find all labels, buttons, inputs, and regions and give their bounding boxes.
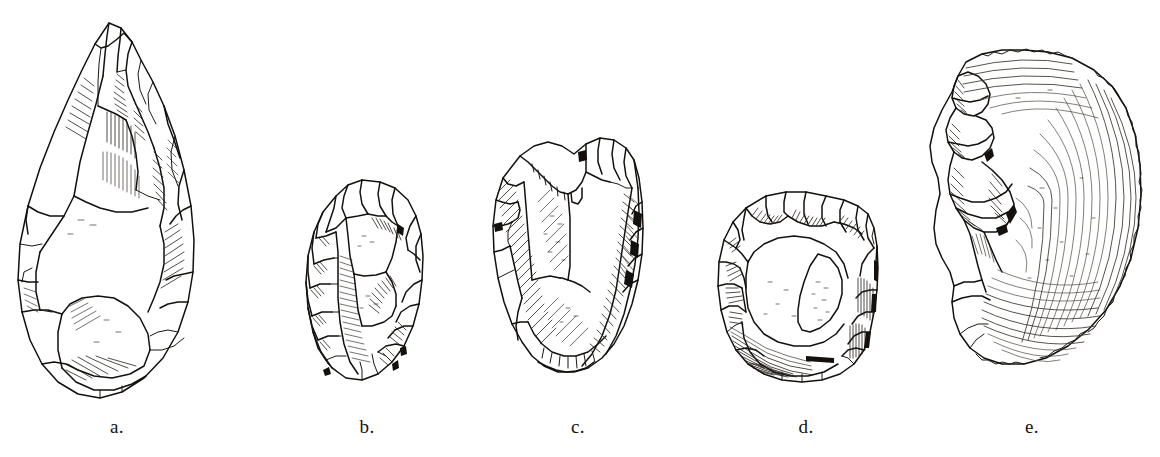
figure-e-large-flake xyxy=(920,28,1150,404)
figure-a-handaxe xyxy=(8,20,204,402)
figure-c-cleaver xyxy=(478,132,656,398)
illustration-plate: a. b. c. d. e. xyxy=(0,0,1160,457)
figure-label-a: a. xyxy=(87,416,147,438)
figure-b-ovate-biface xyxy=(300,176,430,394)
figure-label-b: b. xyxy=(337,416,397,438)
figure-label-c: c. xyxy=(548,416,608,438)
figure-label-d: d. xyxy=(776,416,836,438)
figure-label-e: e. xyxy=(1002,416,1062,438)
figure-d-discoidal-core xyxy=(698,186,892,394)
